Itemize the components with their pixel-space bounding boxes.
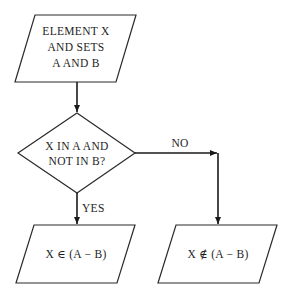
input-node: ELEMENT X AND SETS A AND B bbox=[15, 15, 136, 82]
no-output-node: X ∉ (A − B) bbox=[158, 225, 277, 283]
no-label: NO bbox=[171, 137, 188, 149]
decision-line-1: X IN A AND bbox=[45, 140, 108, 152]
input-line-2: AND SETS bbox=[47, 41, 104, 53]
yes-output-node: X ∈ (A − B) bbox=[16, 225, 135, 283]
decision-diamond bbox=[18, 113, 135, 193]
decision-line-2: NOT IN B? bbox=[49, 155, 106, 167]
decision-node: X IN A AND NOT IN B? bbox=[18, 113, 135, 193]
no-output-text: X ∉ (A − B) bbox=[187, 248, 248, 261]
yes-label: YES bbox=[82, 202, 105, 214]
input-line-1: ELEMENT X bbox=[42, 25, 110, 37]
yes-output-text: X ∈ (A − B) bbox=[45, 248, 106, 261]
flowchart: ELEMENT X AND SETS A AND B X IN A AND NO… bbox=[0, 0, 288, 298]
input-line-3: A AND B bbox=[52, 57, 100, 69]
